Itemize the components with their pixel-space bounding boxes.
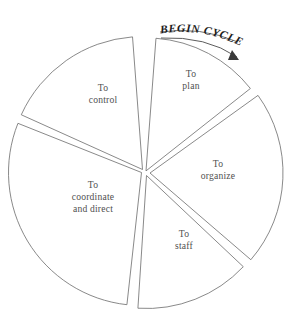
- pie-sectors-group: [9, 37, 283, 309]
- slice-label-line: staff: [175, 240, 193, 251]
- slice-label-line: To: [98, 82, 108, 93]
- slice-label-line: control: [89, 94, 118, 105]
- slice-label-line: To: [88, 179, 98, 190]
- slice-label-line: plan: [182, 80, 199, 91]
- slice-label-line: coordinate: [72, 191, 115, 202]
- management-cycle-diagram: ToplanToorganizeTostaffTocoordinateand d…: [0, 0, 290, 324]
- curved-arrow-head-icon: [228, 50, 239, 60]
- slice-label-line: To: [186, 68, 196, 79]
- slice-label-line: and direct: [73, 203, 113, 214]
- slice-label-line: organize: [201, 170, 235, 181]
- cycle-pie-chart: ToplanToorganizeTostaffTocoordinateand d…: [0, 0, 290, 324]
- slice-label-line: To: [213, 158, 223, 169]
- slice-label-line: To: [179, 228, 189, 239]
